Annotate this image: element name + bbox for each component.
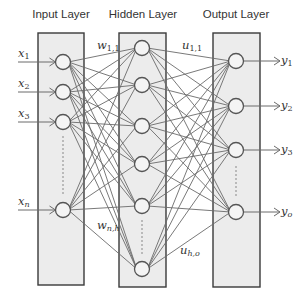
input-label-1: x1 <box>18 48 30 61</box>
weight-label-u-1-1: u1,1 <box>182 40 202 53</box>
input-label-2: x2 <box>18 78 30 91</box>
output-label-1: y1 <box>281 55 293 68</box>
input-node-2 <box>56 85 71 100</box>
output-label-3: y3 <box>281 144 293 157</box>
hidden-node-6 <box>135 262 150 277</box>
output-node-2 <box>229 99 244 114</box>
hidden-node-3 <box>135 119 150 134</box>
input-node-4 <box>56 203 71 218</box>
output-label-4: yo <box>281 206 292 219</box>
weight-label-w-n-h: wn,h <box>97 220 120 233</box>
output-layer-box <box>213 33 260 287</box>
hidden-node-5 <box>135 199 150 214</box>
weight-label-u-h-o: uh,o <box>180 245 200 258</box>
input-node-3 <box>56 115 71 130</box>
hidden-layer-title: Hidden Layer <box>109 8 177 20</box>
hidden-node-1 <box>135 41 150 56</box>
hidden-node-2 <box>135 78 150 93</box>
input-label-4: xn <box>18 196 30 209</box>
neural-network-diagram <box>0 0 305 301</box>
output-node-4 <box>229 205 244 220</box>
output-node-3 <box>229 143 244 158</box>
hidden-node-4 <box>135 157 150 172</box>
weight-label-w-1-1: w1,1 <box>97 40 120 53</box>
output-node-1 <box>229 54 244 69</box>
input-node-1 <box>56 55 71 70</box>
output-label-2: y2 <box>281 100 293 113</box>
input-layer-title: Input Layer <box>32 8 90 20</box>
input-label-3: x3 <box>18 108 30 121</box>
output-layer-title: Output Layer <box>203 8 269 20</box>
